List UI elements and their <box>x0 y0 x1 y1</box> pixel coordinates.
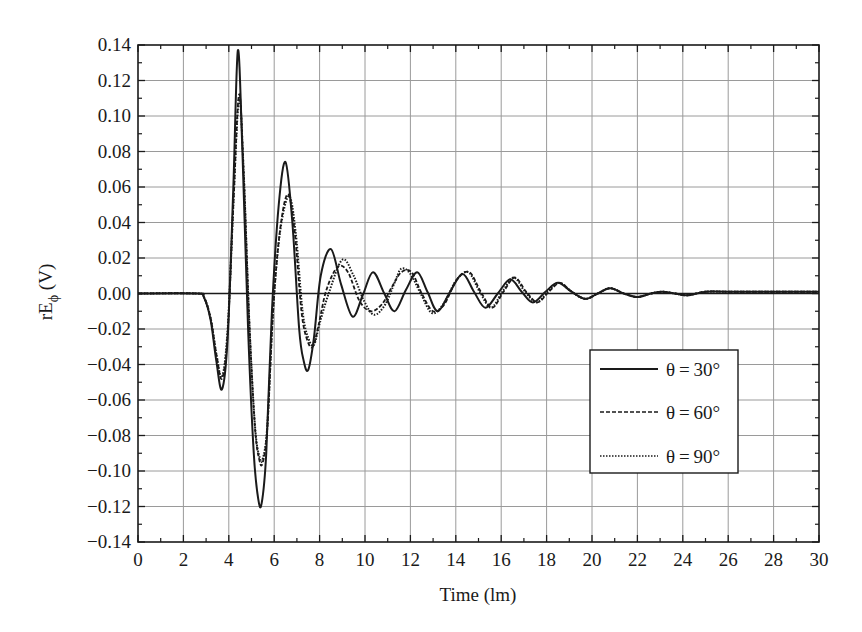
x-tick-label: 24 <box>673 549 693 570</box>
y-tick-label: 0.02 <box>98 247 131 268</box>
y-tick-label: −0.06 <box>87 389 131 410</box>
y-tick-label: 0.14 <box>98 34 132 55</box>
x-tick-label: 2 <box>179 549 189 570</box>
x-tick-label: 4 <box>224 549 234 570</box>
x-tick-label: 28 <box>764 549 783 570</box>
x-tick-label: 0 <box>133 549 143 570</box>
x-tick-label: 6 <box>269 549 279 570</box>
x-tick-label: 10 <box>356 549 375 570</box>
legend: θ = 30° θ = 60° θ = 90° <box>590 350 738 473</box>
x-tick-label: 12 <box>401 549 420 570</box>
svg-text:rEϕ (V): rEϕ (V) <box>35 264 61 320</box>
y-tick-label: 0.04 <box>98 212 132 233</box>
line-chart: 024681012141618202224262830 0.140.120.10… <box>0 0 862 632</box>
x-tick-label: 26 <box>719 549 738 570</box>
y-tick-label: 0.08 <box>98 141 131 162</box>
y-tick-label: −0.14 <box>87 531 131 552</box>
x-tick-label: 8 <box>315 549 325 570</box>
y-tick-label: −0.04 <box>87 354 131 375</box>
x-tick-label: 22 <box>628 549 647 570</box>
y-tick-label: 0.00 <box>98 283 131 304</box>
y-tick-label: −0.08 <box>87 425 131 446</box>
y-tick-label: 0.10 <box>98 105 131 126</box>
y-axis-label: rEϕ (V) <box>35 264 61 320</box>
y-tick-label: −0.10 <box>87 460 131 481</box>
legend-label-30: θ = 30° <box>666 359 720 380</box>
x-tick-label: 16 <box>492 549 511 570</box>
x-tick-label: 18 <box>537 549 556 570</box>
y-tick-label: −0.02 <box>87 318 131 339</box>
y-axis-label-subscript: ϕ <box>46 295 61 302</box>
legend-label-60: θ = 60° <box>666 402 720 423</box>
y-axis-label-main: rE <box>35 302 56 320</box>
x-tick-label: 30 <box>810 549 829 570</box>
y-axis-tick-labels: 0.140.120.100.080.060.040.020.00−0.02−0.… <box>87 34 131 552</box>
legend-label-90: θ = 90° <box>666 446 720 467</box>
x-axis-label: Time (lm) <box>440 584 517 606</box>
y-axis-label-unit: (V) <box>35 264 57 295</box>
y-tick-label: 0.12 <box>98 70 131 91</box>
x-axis-tick-labels: 024681012141618202224262830 <box>133 549 828 570</box>
y-tick-label: 0.06 <box>98 176 131 197</box>
x-tick-label: 20 <box>583 549 602 570</box>
y-tick-label: −0.12 <box>87 496 131 517</box>
x-tick-label: 14 <box>446 549 466 570</box>
